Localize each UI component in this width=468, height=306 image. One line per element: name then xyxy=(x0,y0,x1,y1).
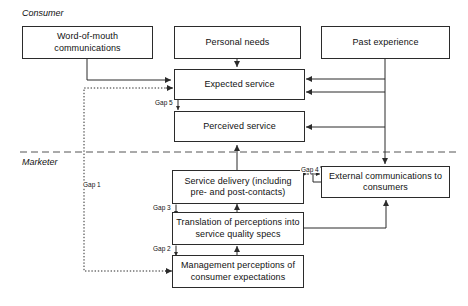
service-quality-gaps-diagram: Consumer Marketer Word-of-mouth communic… xyxy=(0,0,468,306)
node-past-experience-label: Past experience xyxy=(349,37,421,48)
gap-label-5: Gap 5 xyxy=(154,99,174,106)
node-perceived-service[interactable]: Perceived service xyxy=(174,111,305,142)
edge-past-experience-to-expected xyxy=(306,58,385,79)
node-perceived-service-label: Perceived service xyxy=(200,121,279,132)
gap-label-1: Gap 1 xyxy=(82,181,102,188)
gap-label-3: Gap 3 xyxy=(152,204,172,211)
node-past-experience[interactable]: Past experience xyxy=(321,26,450,59)
node-management-perceptions-label: Management perceptions of consumer expec… xyxy=(173,260,303,283)
node-translation-of-perceptions-label: Translation of perceptions into service … xyxy=(173,217,303,240)
edge-past-experience-trunk-to-perceived xyxy=(306,79,385,127)
node-word-of-mouth[interactable]: Word-of-mouth communications xyxy=(22,26,153,59)
edge-word-of-mouth-to-expected xyxy=(87,58,171,80)
node-personal-needs[interactable]: Personal needs xyxy=(174,26,301,59)
node-management-perceptions[interactable]: Management perceptions of consumer expec… xyxy=(172,255,304,288)
node-external-communications[interactable]: External communications to consumers xyxy=(321,166,450,198)
gap-label-4: Gap 4 xyxy=(300,166,320,173)
node-expected-service-label: Expected service xyxy=(201,79,277,90)
node-personal-needs-label: Personal needs xyxy=(203,37,273,48)
node-expected-service[interactable]: Expected service xyxy=(174,69,305,100)
node-translation-of-perceptions[interactable]: Translation of perceptions into service … xyxy=(172,212,304,245)
node-service-delivery-label: Service delivery (including pre- and pos… xyxy=(173,176,303,199)
node-word-of-mouth-label: Word-of-mouth communications xyxy=(23,31,152,54)
edge-translation-to-external xyxy=(303,200,386,228)
edge-gap1-path xyxy=(84,88,172,271)
section-label-consumer: Consumer xyxy=(22,8,64,18)
node-service-delivery[interactable]: Service delivery (including pre- and pos… xyxy=(172,170,304,204)
gap-label-2: Gap 2 xyxy=(152,245,172,252)
section-label-marketer: Marketer xyxy=(22,157,58,167)
node-external-communications-label: External communications to consumers xyxy=(322,171,449,194)
